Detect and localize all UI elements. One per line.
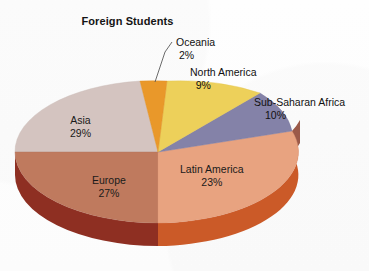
slice-label-north-america-value: 9% [190,79,257,92]
slice-label-oceania: Oceania 2% [176,36,215,61]
slice-label-asia: Asia 29% [70,114,91,139]
slice-label-latin-america-value: 23% [180,176,244,189]
slice-label-north-america-name: North America [190,66,257,78]
slice-label-europe-name: Europe [92,174,126,186]
pie-chart-figure: Foreign Students [0,0,369,271]
slice-label-latin-america: Latin America 23% [180,163,244,188]
slice-label-sub-saharan-africa: Sub-Saharan Africa 10% [254,96,345,121]
slice-label-sub-saharan-africa-name: Sub-Saharan Africa [254,96,345,108]
oceania-leader-line [155,42,172,82]
slice-label-sub-saharan-africa-value: 10% [254,109,345,122]
slice-label-europe: Europe 27% [92,174,126,199]
slice-label-asia-name: Asia [70,114,90,126]
slice-label-oceania-name: Oceania [176,36,215,48]
slice-label-asia-value: 29% [70,127,91,140]
slice-label-europe-value: 27% [92,187,126,200]
chart-title: Foreign Students [0,15,255,27]
slice-label-oceania-value: 2% [176,49,215,62]
slice-label-latin-america-name: Latin America [180,163,244,175]
slice-label-north-america: North America 9% [190,66,257,91]
